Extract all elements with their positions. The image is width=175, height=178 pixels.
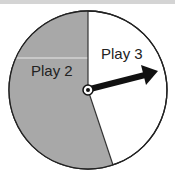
label-play-3: Play 3: [101, 45, 143, 62]
label-play-2: Play 2: [31, 62, 73, 79]
spinner-diagram: Play 2 Play 3: [0, 0, 175, 178]
